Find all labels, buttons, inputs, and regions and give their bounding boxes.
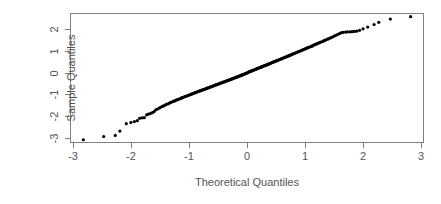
data-point — [361, 27, 364, 30]
y-axis-tick-label: -2 — [48, 107, 61, 127]
data-point — [409, 15, 412, 18]
x-axis-title: Theoretical Quantiles — [70, 176, 424, 188]
data-point — [125, 122, 128, 125]
x-axis-tick-label: 2 — [351, 150, 375, 163]
y-axis-tick-label: 1 — [48, 42, 61, 62]
y-axis-tick-label: 0 — [48, 64, 61, 84]
data-point — [358, 29, 361, 32]
x-axis-tick — [421, 143, 422, 148]
data-point — [118, 129, 121, 132]
data-point — [102, 135, 105, 138]
x-axis-tick — [73, 143, 74, 148]
x-axis-tick — [305, 143, 306, 148]
x-axis-tick-label: 1 — [293, 150, 317, 163]
scatter-data-layer — [70, 13, 424, 143]
x-axis-tick — [247, 143, 248, 148]
x-axis-tick-label: -3 — [61, 150, 85, 163]
x-axis-tick-label: 3 — [409, 150, 433, 163]
y-axis-tick-label: -1 — [48, 85, 61, 105]
x-axis-tick-label: 0 — [235, 150, 259, 163]
data-point — [114, 134, 117, 137]
data-point — [389, 17, 392, 20]
data-point — [143, 116, 146, 119]
x-axis-tick — [131, 143, 132, 148]
data-point — [133, 120, 136, 123]
data-point — [372, 23, 375, 26]
data-point — [82, 138, 85, 141]
x-axis-tick-label: -2 — [119, 150, 143, 163]
data-point — [136, 119, 139, 122]
y-axis-tick-label: -3 — [48, 129, 61, 149]
data-point — [129, 121, 132, 124]
data-point — [355, 30, 358, 33]
x-axis-tick — [363, 143, 364, 148]
data-points-svg — [70, 13, 424, 143]
data-point — [366, 25, 369, 28]
y-axis-title: Sample Quantiles — [64, 13, 78, 143]
x-axis-tick-label: -1 — [177, 150, 201, 163]
x-axis-tick — [189, 143, 190, 148]
qq-plot-figure: -3-2-10123-3-2-1012 Theoretical Quantile… — [0, 0, 441, 204]
y-axis-tick-label: 2 — [48, 20, 61, 40]
data-point — [377, 21, 380, 24]
